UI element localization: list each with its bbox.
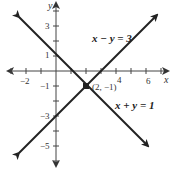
intersection-point-label: (2, −1) <box>92 82 117 92</box>
x-axis <box>8 68 168 74</box>
intersection-point-marker <box>83 83 89 89</box>
tick-label-x-6: 6 <box>146 76 151 86</box>
graph-canvas: y x −2 4 6 3 1 −1 −3 −5 x − y = 3 x + y … <box>0 0 173 170</box>
equation-label-x-minus-y: x − y = 3 <box>91 32 132 44</box>
equation-label-x-plus-y: x + y = 1 <box>114 99 154 111</box>
y-axis <box>53 3 59 166</box>
tick-label-x-4: 4 <box>117 75 122 85</box>
tick-label-y-neg3: −3 <box>40 111 50 121</box>
y-axis-label: y <box>47 0 53 11</box>
tick-label-x-neg2: −2 <box>20 76 30 86</box>
tick-label-y-1: 1 <box>45 50 50 60</box>
x-axis-label: x <box>163 74 169 85</box>
tick-label-y-neg5: −5 <box>40 141 50 151</box>
tick-label-y-neg1: −1 <box>40 81 50 91</box>
tick-label-y-3: 3 <box>45 21 50 31</box>
